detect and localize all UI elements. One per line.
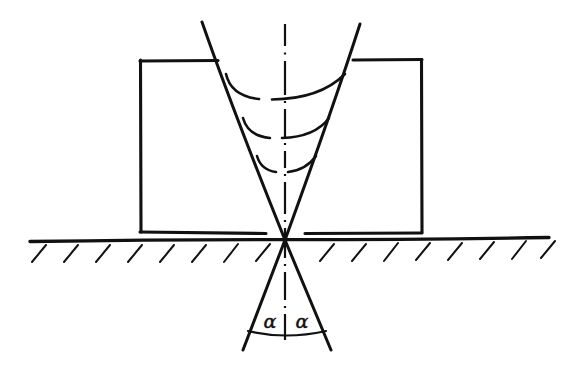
wavefront-arc — [226, 74, 259, 99]
wavefront-arc — [243, 118, 270, 138]
workpiece-bottom-right-edge — [305, 233, 422, 234]
hatch-stroke — [541, 241, 555, 258]
ground-line-stroke — [30, 238, 549, 242]
wavefront-arc — [272, 74, 345, 100]
angle-arc — [248, 331, 326, 336]
upper-cone-left-ray — [202, 22, 285, 240]
hatch-stroke — [64, 245, 78, 262]
hatch-stroke — [512, 241, 526, 259]
angle-label-right: α — [296, 310, 309, 332]
hatch-stroke — [224, 244, 238, 262]
figure-canvas: α α — [0, 0, 571, 384]
angle-label-left: α — [264, 310, 277, 332]
hatch-stroke — [32, 245, 46, 262]
technical-drawing-svg: α α — [0, 0, 571, 384]
hatch-stroke — [96, 245, 110, 262]
upper-cone-right-ray — [285, 24, 360, 240]
hatch-stroke — [128, 245, 142, 262]
upper-cone — [202, 22, 360, 240]
workpiece-top-right-edge — [353, 60, 422, 61]
workpiece-right-edge — [422, 60, 423, 233]
hatch-stroke — [320, 244, 334, 261]
hatch-stroke — [416, 243, 430, 260]
hatch-stroke — [384, 243, 398, 261]
ground-line — [30, 238, 549, 242]
hatch-stroke — [192, 245, 206, 262]
workpiece-rectangle — [140, 60, 422, 234]
workpiece-top-left-edge — [140, 61, 218, 62]
hatch-stroke — [448, 243, 462, 260]
hatch-stroke — [160, 245, 174, 262]
angle-arc-stroke — [248, 331, 326, 336]
workpiece-bottom-left-edge — [140, 232, 266, 234]
wavefront-arc — [257, 156, 276, 172]
workpiece-left-edge — [141, 60, 142, 232]
hatch-stroke — [480, 242, 494, 259]
hatch-stroke — [352, 244, 366, 261]
hatch-stroke — [256, 244, 270, 261]
